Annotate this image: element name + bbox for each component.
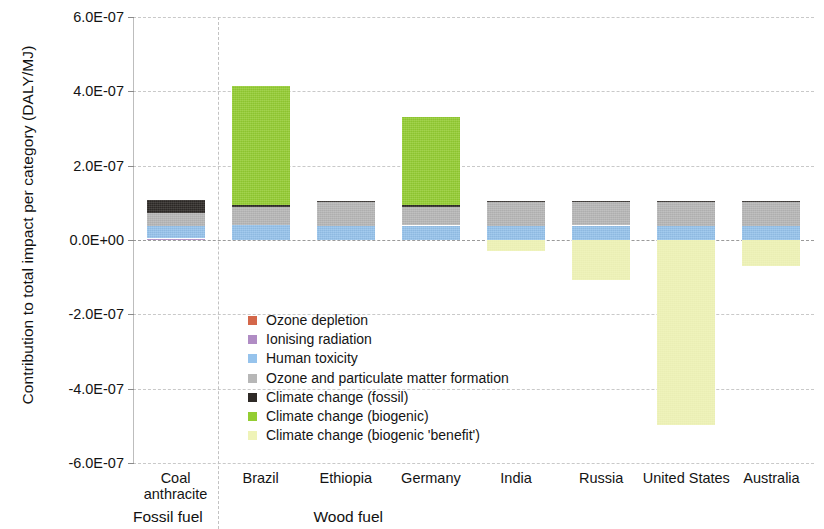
legend-item-label: Ozone and particulate matter formation <box>266 369 509 388</box>
y-axis-tick-label: -4.0E-07 <box>68 381 124 397</box>
legend-swatch-icon <box>248 354 257 363</box>
bar-group <box>559 17 644 463</box>
bar-group <box>644 17 729 463</box>
bar-segment <box>147 213 205 226</box>
bar-segment <box>742 226 800 240</box>
legend-item-label: Ozone depletion <box>266 311 368 330</box>
stacked-bar[interactable] <box>572 17 630 463</box>
legend-item-label: Climate change (biogenic 'benefit') <box>266 426 480 445</box>
y-axis-tick-label: 2.0E-07 <box>73 158 124 174</box>
x-axis-tick-label: Brazil <box>243 470 279 486</box>
bar-segment <box>657 202 715 226</box>
x-axis-tick-label: United States <box>643 470 730 486</box>
x-axis-tick-label: Australia <box>743 470 799 486</box>
bar-segment <box>742 201 800 202</box>
x-axis-group-label: Fossil fuel <box>133 508 203 526</box>
legend-item[interactable]: Ozone and particulate matter formation <box>248 369 509 388</box>
x-axis-tick-label-line2: anthracite <box>144 486 208 502</box>
legend-item[interactable]: Ozone depletion <box>248 311 509 330</box>
y-axis-title: Contribution to total impact per categor… <box>19 1 37 449</box>
x-axis-tick-label: Germany <box>401 470 461 486</box>
x-axis-tick-label-line1: Brazil <box>243 470 279 486</box>
bar-segment <box>317 226 375 240</box>
x-axis-group-labels: Fossil fuelWood fuel <box>133 508 814 529</box>
bar-segment <box>572 201 630 202</box>
x-axis-tick-labels: CoalanthraciteBrazilEthiopiaGermanyIndia… <box>133 470 814 510</box>
legend: Ozone depletionIonising radiationHuman t… <box>248 311 509 445</box>
legend-item[interactable]: Ionising radiation <box>248 330 509 349</box>
y-axis-tick <box>128 463 134 464</box>
legend-item[interactable]: Climate change (fossil) <box>248 388 509 407</box>
bar-segment <box>657 201 715 202</box>
bar-segment <box>317 201 375 202</box>
bar-segment <box>402 226 460 240</box>
bar-segment <box>147 239 205 240</box>
x-axis-tick-label-line1: India <box>500 470 531 486</box>
legend-item-label: Climate change (fossil) <box>266 388 408 407</box>
x-axis-tick-label-line1: Ethiopia <box>320 470 372 486</box>
legend-swatch-icon <box>248 316 257 325</box>
bar-segment <box>232 207 290 225</box>
legend-item-label: Climate change (biogenic) <box>266 407 429 426</box>
legend-swatch-icon <box>248 335 257 344</box>
chart-figure: Contribution to total impact per categor… <box>0 0 824 529</box>
bar-segment <box>317 202 375 226</box>
bar-segment <box>232 205 290 208</box>
bar-segment <box>402 117 460 204</box>
legend-item[interactable]: Climate change (biogenic) <box>248 407 509 426</box>
x-axis-tick-label-line1: United States <box>643 470 730 486</box>
stacked-bar[interactable] <box>147 17 205 463</box>
x-axis-tick-label-line1: Coal <box>161 470 191 486</box>
bar-segment <box>487 240 545 251</box>
bar-segment <box>232 225 290 240</box>
legend-swatch-icon <box>248 393 257 402</box>
bar-segment <box>742 202 800 226</box>
bar-segment <box>742 240 800 266</box>
y-axis-tick-label: -2.0E-07 <box>68 306 124 322</box>
x-axis-tick-label-line1: Russia <box>579 470 623 486</box>
legend-swatch-icon <box>248 412 257 421</box>
bar-segment <box>572 226 630 240</box>
bar-segment <box>487 201 545 202</box>
x-axis-group-label: Wood fuel <box>313 508 383 526</box>
bar-segment <box>572 202 630 226</box>
bar-segment <box>487 202 545 226</box>
stacked-bar[interactable] <box>657 17 715 463</box>
legend-item-label: Ionising radiation <box>266 330 372 349</box>
y-axis-tick-label: 6.0E-07 <box>73 9 124 25</box>
x-axis-tick-label-line1: Germany <box>401 470 461 486</box>
legend-item-label: Human toxicity <box>266 349 358 368</box>
gridline <box>133 463 814 464</box>
bar-group <box>133 17 218 463</box>
bar-group <box>729 17 814 463</box>
legend-swatch-icon <box>248 374 257 383</box>
bar-segment <box>657 226 715 240</box>
bar-segment <box>402 205 460 207</box>
bar-segment <box>657 240 715 425</box>
bar-segment <box>487 226 545 240</box>
x-axis-tick-label: India <box>500 470 531 486</box>
bar-segment <box>232 86 290 205</box>
x-axis-tick-label: Coalanthracite <box>144 470 208 502</box>
legend-swatch-icon <box>248 431 257 440</box>
y-axis-tick-label: -6.0E-07 <box>68 455 124 471</box>
x-axis-tick-label: Russia <box>579 470 623 486</box>
legend-item[interactable]: Climate change (biogenic 'benefit') <box>248 426 509 445</box>
bar-segment <box>147 226 205 238</box>
bar-segment <box>402 207 460 226</box>
y-axis-tick-label: 0.0E+00 <box>70 232 124 248</box>
bar-segment <box>572 240 630 280</box>
legend-item[interactable]: Human toxicity <box>248 349 509 368</box>
y-axis-tick-label: 4.0E-07 <box>73 83 124 99</box>
stacked-bar[interactable] <box>742 17 800 463</box>
x-axis-tick-label-line1: Australia <box>743 470 799 486</box>
bar-segment <box>147 200 205 213</box>
x-axis-tick-label: Ethiopia <box>320 470 372 486</box>
